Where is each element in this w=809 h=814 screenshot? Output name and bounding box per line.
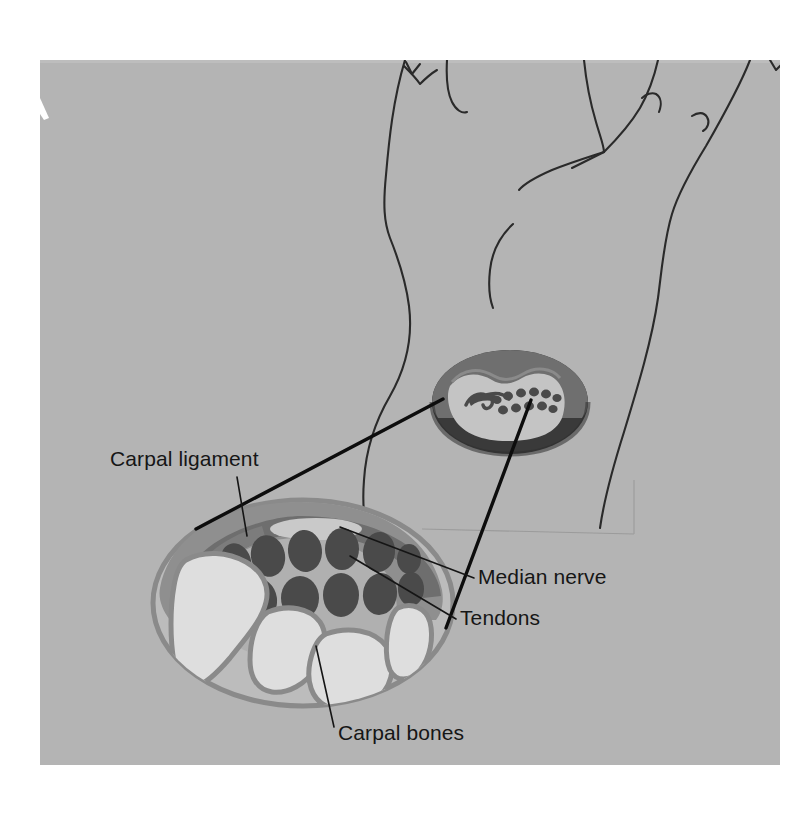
wrist-cross-section-inset (432, 350, 588, 454)
tendon-ellipse (398, 572, 424, 606)
tendon-ellipse (323, 573, 359, 617)
label-tendons: Tendons (460, 606, 540, 629)
label-carpal-ligament: Carpal ligament (110, 447, 259, 470)
carpal-tunnel-illustration: Carpal ligament Median nerve Tendons Car… (0, 0, 809, 814)
figure-root: Carpal ligament Median nerve Tendons Car… (0, 0, 809, 814)
label-carpal-bones: Carpal bones (338, 721, 464, 744)
panel-top-highlight (40, 60, 780, 63)
tendon-ellipse (325, 528, 359, 570)
tendon-ellipse (397, 544, 421, 574)
label-median-nerve: Median nerve (478, 565, 606, 588)
carpal-tunnel-cross-section-main (153, 500, 453, 710)
